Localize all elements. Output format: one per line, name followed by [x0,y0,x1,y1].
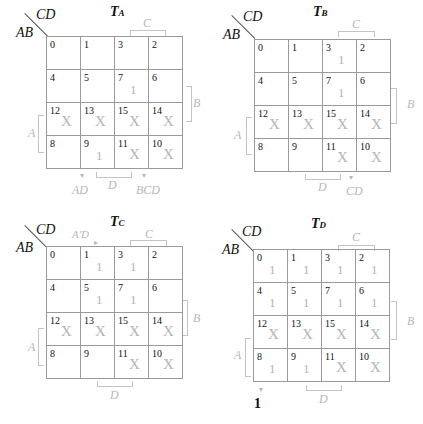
kmap-cell: 31 [322,250,356,283]
annotation-arrow: ▾ [349,173,353,182]
kmap-cell: 2 [357,40,391,73]
kmap-grid: 01 11 31 21 41 51 71 61 12X 13X 15X 14X … [253,249,390,382]
kmap-ta: TA CD AB C B A D ▾ ▾ AD BCD 0 1 3 2 4 5 … [0,0,210,210]
kmap-title: TB [313,4,328,20]
kmap-cell: 0 [47,247,81,280]
kmap-cell: 11X [323,139,357,172]
row-var-label: AB [223,27,240,43]
kmap-cell: 21 [356,250,390,283]
kmap-cell: 71 [323,73,357,106]
kmap-cell: 51 [288,283,322,316]
kmap-td: TD CD AB C B A D ▾ 1 01 11 31 21 41 51 7… [210,210,420,420]
kmap-cell: 13X [81,103,115,136]
kmap-cell: 14X [149,313,183,346]
kmap-cell: 91 [288,349,322,382]
kmap-cell: 11 [288,250,322,283]
group-label-b: B [193,96,200,111]
kmap-cell: 0 [47,37,81,70]
annotation-term: BCD [136,183,160,198]
kmap-cell: 14X [149,103,183,136]
kmap-cell: 11X [322,349,356,382]
kmap-cell: 31 [115,247,149,280]
kmap-grid: 0 11 31 2 4 51 71 6 12X 13X 15X 14X 8 9 … [46,246,183,379]
bracket-a [38,115,44,153]
group-label-c: C [352,230,360,245]
kmap-cell: 4 [47,70,81,103]
kmap-cell: 01 [254,250,288,283]
annotation-arrow: ▾ [80,171,84,180]
bracket-b [186,86,192,122]
bracket-d [306,385,342,391]
kmap-cell: 12X [47,103,81,136]
annotation-term: 1 [254,396,261,412]
group-label-d: D [319,392,328,407]
kmap-cell: 14X [356,316,390,349]
kmap-cell: 12X [47,313,81,346]
kmap-grid: 0 1 31 2 4 5 71 6 12X 13X 15X 14X 8 9 11… [254,39,391,172]
row-var-label: AB [222,242,239,258]
col-var-label: CD [242,224,261,240]
kmap-cell: 71 [115,280,149,313]
kmap-cell: 4 [255,73,289,106]
kmap-cell: 81 [254,349,288,382]
kmap-title: TA [110,4,125,20]
kmap-title: TD [311,216,326,232]
kmap-cell: 15X [322,316,356,349]
kmap-cell: 11X [115,346,149,379]
kmap-cell: 4 [47,280,81,313]
kmap-cell: 6 [357,73,391,106]
group-label-c: C [352,17,360,32]
kmap-cell: 8 [47,346,81,379]
annotation-term: AD [72,183,88,198]
kmap-cell: 5 [81,70,115,103]
kmap-cell: 12X [254,316,288,349]
kmap-cell: 41 [254,283,288,316]
bracket-b [391,301,397,340]
kmap-cell: 2 [149,247,183,280]
kmap-cell: 6 [149,280,183,313]
kmap-tb: TB CD AB C B A D ▾ CD 0 1 31 2 4 5 71 6 … [210,0,420,210]
kmap-cell: 1 [81,37,115,70]
kmap-cell: 61 [356,283,390,316]
kmap-cell: 71 [322,283,356,316]
col-var-label: CD [243,9,262,25]
bracket-a [246,117,252,155]
group-label-d: D [110,388,119,403]
kmap-cell: 91 [81,136,115,169]
kmap-cell: 6 [149,70,183,103]
kmap-cell: 15X [115,103,149,136]
kmap-cell: 10X [356,349,390,382]
kmap-cell: 15X [323,106,357,139]
group-label-b: B [407,314,414,329]
kmap-cell: 10X [149,136,183,169]
annotation-arrow: ▾ [142,171,146,180]
group-label-d: D [108,178,117,193]
bracket-a [38,328,44,366]
group-label-a: A [234,128,241,143]
kmap-cell: 14X [357,106,391,139]
kmap-cell: 11 [81,247,115,280]
row-var-label: AB [16,25,33,41]
group-label-a: A [234,348,241,363]
row-var-label: AB [16,240,33,256]
kmap-cell: 10X [149,346,183,379]
group-label-c: C [143,16,151,31]
kmap-cell: 10X [357,139,391,172]
group-label-d: D [318,180,327,195]
kmap-grid: 0 1 3 2 4 5 71 6 12X 13X 15X 14X 8 91 11… [46,36,183,169]
kmap-cell: 12X [255,106,289,139]
bracket-b [391,88,397,124]
kmap-cell: 1 [289,40,323,73]
kmap-cell: 9 [289,139,323,172]
annotation-term: CD [346,184,363,199]
kmap-cell: 9 [81,346,115,379]
kmap-tc: TC CD AB A'D ▸ C B A D 0 11 31 2 4 51 71… [0,210,210,420]
kmap-cell: 0 [255,40,289,73]
col-var-label: CD [36,222,55,238]
kmap-cell: 71 [115,70,149,103]
group-label-c: C [145,227,153,242]
annotation-arrow: ▾ [259,385,263,394]
kmap-cell: 8 [47,136,81,169]
kmap-cell: 13X [289,106,323,139]
group-label-b: B [193,311,200,326]
